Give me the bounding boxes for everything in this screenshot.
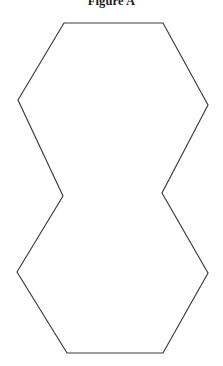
figure-page: Figure A [0, 0, 223, 366]
double-hexagon-shape [17, 23, 208, 353]
figure-drawing [0, 0, 223, 366]
